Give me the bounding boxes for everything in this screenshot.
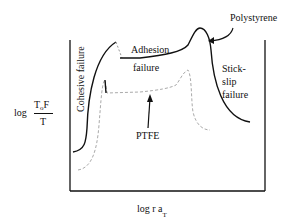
adhesion-label-line2: failure [133, 62, 159, 73]
diagram-canvas [0, 0, 287, 224]
stick-slip-label-line2: slip [222, 76, 236, 87]
ptfe-tick [105, 80, 106, 93]
y-axis-fraction-bar [34, 113, 53, 114]
polystyrene-connector-dashed [116, 42, 122, 58]
polystyrene-curve-adhesion [120, 28, 250, 122]
x-label-main: log r a [137, 203, 163, 214]
polystyrene-label: Polystyrene [230, 12, 277, 23]
y-num-tail: F [44, 99, 50, 110]
y-axis-label-denominator: T [40, 116, 46, 127]
ptfe-label: PTFE [136, 130, 159, 141]
stick-slip-label-line1: Stick- [222, 63, 246, 74]
x-label-sub: T [163, 211, 167, 219]
ptfe-pointer-arrow [148, 98, 150, 128]
ptfe-curve [78, 70, 210, 170]
y-axis-label-log: log [14, 107, 27, 118]
y-axis-label-numerator: ToF [34, 99, 49, 112]
x-axis-label: log r aT [137, 203, 167, 221]
cohesive-failure-label: Cohesive failure [75, 46, 86, 112]
stick-slip-label-line3: failure [222, 89, 248, 100]
adhesion-label-line1: Adhesion [131, 44, 169, 55]
ptfe-arrowhead-icon [147, 94, 153, 102]
